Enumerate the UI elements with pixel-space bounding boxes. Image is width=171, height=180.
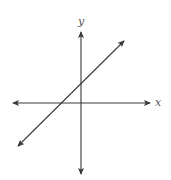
coordinate-plane: y x [0, 0, 171, 180]
y-axis-label: y [77, 15, 85, 28]
graph-line-lower [18, 94, 71, 147]
graph-line [71, 41, 124, 94]
x-axis-label: x [155, 96, 162, 109]
